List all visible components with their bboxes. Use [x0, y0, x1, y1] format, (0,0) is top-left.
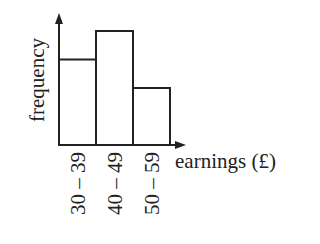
x-axis-label: earnings (£): [175, 149, 276, 173]
x-tick-label: 50 – 59: [140, 152, 164, 215]
histogram-chart: frequency earnings (£) 30 – 3940 – 4950 …: [0, 0, 320, 244]
x-tick-label: 30 – 39: [66, 152, 90, 215]
y-axis-arrow-icon: [55, 13, 63, 24]
bar: [96, 31, 133, 145]
x-axis-arrow-icon: [175, 141, 186, 149]
x-tick-label: 40 – 49: [103, 152, 127, 215]
bars: [59, 31, 170, 145]
bar: [59, 60, 96, 146]
y-axis-label: frequency: [25, 38, 49, 122]
x-tick-labels: 30 – 3940 – 4950 – 59: [66, 152, 164, 215]
bar: [133, 88, 170, 145]
